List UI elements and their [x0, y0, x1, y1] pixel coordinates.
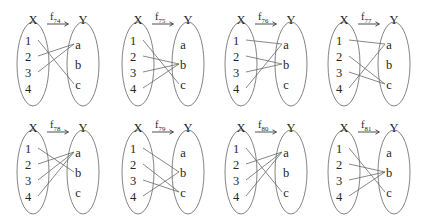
domain-element-4: 4 — [233, 82, 240, 96]
domain-set-label: X — [236, 13, 245, 27]
domain-element-4: 4 — [130, 82, 137, 96]
mapping-edge-3-to-a — [246, 152, 282, 180]
domain-element-1: 1 — [336, 34, 342, 48]
codomain-element-a: a — [386, 38, 392, 52]
codomain-element-a: a — [180, 146, 186, 160]
domain-element-1: 1 — [336, 142, 342, 156]
domain-element-1: 1 — [130, 142, 136, 156]
domain-element-4: 4 — [233, 190, 240, 204]
mapping-edge-2-to-b — [246, 56, 282, 64]
codomain-element-b: b — [75, 166, 81, 180]
domain-oval — [122, 22, 154, 106]
domain-element-1: 1 — [233, 34, 239, 48]
codomain-set-label: Y — [78, 121, 87, 135]
mapping-edge-3-to-b — [246, 64, 282, 72]
domain-element-3: 3 — [25, 66, 31, 80]
mapping-edge-2-to-b — [349, 164, 385, 172]
function-label: f74 — [50, 11, 61, 24]
codomain-element-c: c — [386, 186, 392, 200]
codomain-element-c: c — [283, 186, 289, 200]
codomain-element-c: c — [180, 78, 186, 92]
domain-oval — [328, 22, 360, 106]
domain-element-2: 2 — [130, 50, 136, 64]
panel-f81: XYf811234abc — [317, 110, 421, 218]
domain-element-3: 3 — [233, 174, 239, 188]
function-label: f75 — [155, 11, 166, 24]
domain-oval — [17, 22, 49, 106]
domain-element-2: 2 — [336, 50, 342, 64]
domain-set-label: X — [133, 121, 142, 135]
codomain-element-c: c — [75, 78, 81, 92]
codomain-element-a: a — [180, 38, 186, 52]
codomain-oval — [378, 130, 410, 214]
codomain-set-label: Y — [389, 13, 398, 27]
domain-element-1: 1 — [233, 142, 239, 156]
domain-oval — [225, 22, 257, 106]
function-label: f79 — [155, 119, 166, 132]
codomain-oval — [275, 22, 307, 106]
codomain-oval — [172, 22, 204, 106]
domain-element-1: 1 — [25, 34, 31, 48]
codomain-oval — [67, 130, 99, 214]
domain-element-2: 2 — [130, 158, 136, 172]
domain-set-label: X — [339, 121, 348, 135]
domain-set-label: X — [339, 13, 348, 27]
domain-oval — [122, 130, 154, 214]
domain-element-4: 4 — [336, 82, 343, 96]
mapping-edge-3-to-c — [143, 180, 179, 192]
panel-f75: XYf751234abc — [111, 2, 215, 110]
domain-element-4: 4 — [130, 190, 137, 204]
codomain-element-a: a — [386, 146, 392, 160]
codomain-oval — [275, 130, 307, 214]
panel-f76: XYf761234abc — [214, 2, 318, 110]
mapping-edge-3-to-a — [38, 44, 74, 72]
codomain-set-label: Y — [286, 121, 295, 135]
domain-element-4: 4 — [336, 190, 343, 204]
domain-element-2: 2 — [25, 158, 31, 172]
domain-element-3: 3 — [130, 66, 136, 80]
function-label: f78 — [50, 119, 61, 132]
panel-f80: XYf801234abc — [214, 110, 318, 218]
codomain-element-a: a — [75, 38, 81, 52]
codomain-set-label: Y — [78, 13, 87, 27]
function-label: f81 — [361, 119, 371, 132]
domain-element-3: 3 — [233, 66, 239, 80]
codomain-set-label: Y — [286, 13, 295, 27]
codomain-element-a: a — [283, 38, 289, 52]
codomain-element-c: c — [283, 78, 289, 92]
panel-f77: XYf771234abc — [317, 2, 421, 110]
domain-set-label: X — [28, 13, 37, 27]
codomain-element-a: a — [283, 146, 289, 160]
codomain-set-label: Y — [183, 13, 192, 27]
codomain-element-c: c — [386, 78, 392, 92]
domain-oval — [17, 130, 49, 214]
domain-element-2: 2 — [336, 158, 342, 172]
mapping-edge-2-to-a — [38, 44, 74, 56]
codomain-oval — [378, 22, 410, 106]
domain-element-1: 1 — [25, 142, 31, 156]
codomain-set-label: Y — [183, 121, 192, 135]
function-label: f80 — [258, 119, 269, 132]
domain-oval — [328, 130, 360, 214]
function-diagram-grid: XYf741234abcXYf751234abcXYf761234abcXYf7… — [0, 0, 423, 220]
mapping-edge-2-to-b — [143, 56, 179, 64]
domain-oval — [225, 130, 257, 214]
panel-f78: XYf781234abc — [6, 110, 110, 218]
codomain-element-b: b — [283, 58, 289, 72]
mapping-edge-1-to-a — [349, 40, 385, 44]
codomain-set-label: Y — [389, 121, 398, 135]
function-label: f76 — [258, 11, 269, 24]
domain-element-2: 2 — [233, 50, 239, 64]
codomain-element-b: b — [386, 58, 392, 72]
codomain-element-b: b — [75, 58, 81, 72]
panel-f79: XYf791234abc — [111, 110, 215, 218]
codomain-oval — [172, 130, 204, 214]
domain-element-2: 2 — [233, 158, 239, 172]
codomain-element-b: b — [180, 166, 186, 180]
codomain-oval — [67, 22, 99, 106]
domain-element-3: 3 — [336, 174, 342, 188]
panel-f74: XYf741234abc — [6, 2, 110, 110]
domain-element-3: 3 — [130, 174, 136, 188]
mapping-edge-1-to-a — [246, 40, 282, 44]
codomain-element-b: b — [180, 58, 186, 72]
